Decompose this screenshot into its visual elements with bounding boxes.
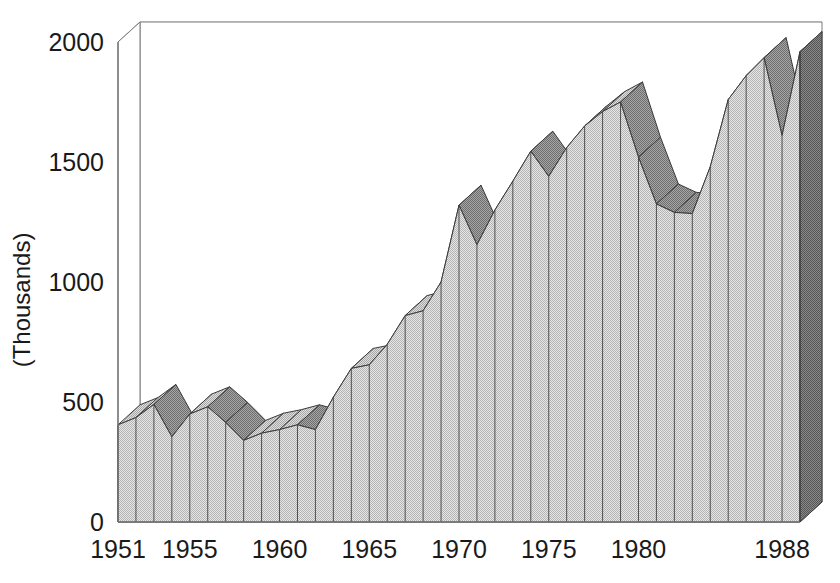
- x-tick-label: 1960: [252, 535, 308, 563]
- x-tick-label: 1988: [754, 535, 810, 563]
- area-end-cap: [800, 32, 822, 522]
- y-tick-label: 0: [90, 508, 104, 536]
- chart-container: 0500100015002000 19511955196019651970197…: [0, 0, 840, 583]
- y-tick-label: 2000: [48, 28, 104, 56]
- area-chart: 0500100015002000 19511955196019651970197…: [0, 0, 840, 583]
- y-tick-label: 500: [62, 388, 104, 416]
- x-tick-label: 1970: [431, 535, 487, 563]
- y-tick-label: 1500: [48, 148, 104, 176]
- x-tick-label: 1980: [611, 535, 667, 563]
- x-tick-label: 1965: [341, 535, 397, 563]
- y-tick-label: 1000: [48, 268, 104, 296]
- x-tick-label: 1975: [521, 535, 577, 563]
- y-axis-title: (Thousands): [8, 233, 35, 368]
- x-tick-label: 1955: [162, 535, 218, 563]
- x-tick-label: 1951: [90, 535, 146, 563]
